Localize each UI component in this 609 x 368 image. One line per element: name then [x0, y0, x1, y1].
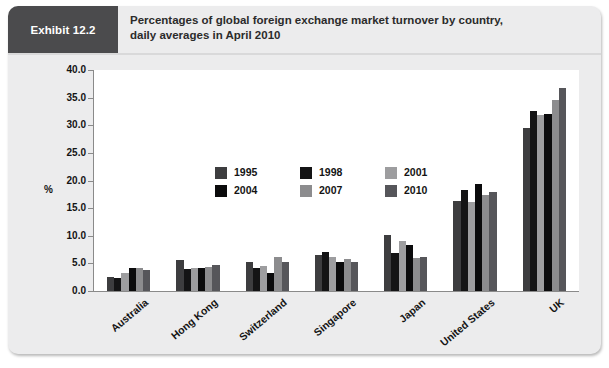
- bar: [351, 262, 358, 291]
- y-axis-tick: [88, 263, 93, 264]
- x-axis-category-labels: AustraliaHong KongSwitzerlandSingaporeJa…: [93, 292, 593, 352]
- bar: [453, 201, 460, 291]
- legend-label: 1995: [234, 166, 257, 178]
- bar: [559, 88, 566, 291]
- bar: [552, 100, 559, 291]
- legend-swatch: [300, 185, 312, 197]
- legend-label: 1998: [319, 166, 342, 178]
- y-axis-tick-label: 40.0: [50, 64, 86, 75]
- legend-label: 2001: [404, 166, 427, 178]
- y-axis-tick-label: 15.0: [50, 202, 86, 213]
- y-axis-tick-label: 35.0: [50, 92, 86, 103]
- y-axis-tick-label: 5.0: [50, 257, 86, 268]
- bar-group: [246, 70, 289, 291]
- y-axis-tick: [88, 125, 93, 126]
- bar: [253, 268, 260, 291]
- bar: [530, 111, 537, 291]
- bar: [274, 257, 281, 291]
- bar: [344, 259, 351, 291]
- y-axis-tick: [88, 153, 93, 154]
- exhibit-card: Exhibit 12.2 Percentages of global forei…: [8, 6, 601, 354]
- bar: [212, 265, 219, 291]
- bar-group: [453, 70, 496, 291]
- bar: [468, 202, 475, 291]
- y-axis-tick-label: 10.0: [50, 230, 86, 241]
- chart-plot-area: 199519982001200420072010: [93, 70, 579, 292]
- x-axis-category-label: Australia: [51, 296, 151, 368]
- bar: [322, 252, 329, 291]
- bar: [482, 195, 489, 291]
- bar: [537, 115, 544, 291]
- legend-swatch: [215, 167, 227, 179]
- y-axis-unit-label: %: [44, 184, 53, 195]
- bars-layer: [94, 70, 579, 291]
- legend-swatch: [300, 167, 312, 179]
- bar: [329, 257, 336, 291]
- bar: [114, 278, 121, 291]
- y-axis-tick: [88, 70, 93, 71]
- y-axis-tick-label: 30.0: [50, 119, 86, 130]
- exhibit-title-line-1: Percentages of global foreign exchange m…: [130, 13, 585, 28]
- bar: [489, 192, 496, 291]
- legend-swatch: [385, 185, 397, 197]
- legend-label: 2007: [319, 184, 342, 196]
- bar: [107, 277, 114, 291]
- bar: [176, 260, 183, 291]
- bar: [523, 128, 530, 291]
- y-axis-tick: [88, 98, 93, 99]
- bar: [384, 235, 391, 291]
- bar: [136, 268, 143, 291]
- bar: [461, 190, 468, 291]
- bar: [267, 273, 274, 291]
- bar: [121, 273, 128, 291]
- y-axis-tick: [88, 208, 93, 209]
- bar-group: [315, 70, 358, 291]
- bar-group: [384, 70, 427, 291]
- bar: [184, 269, 191, 291]
- bar: [399, 241, 406, 291]
- exhibit-number-tab: Exhibit 12.2: [8, 6, 118, 53]
- bar: [282, 262, 289, 291]
- bar: [544, 114, 551, 291]
- exhibit-title: Percentages of global foreign exchange m…: [130, 13, 585, 43]
- bar: [260, 266, 267, 291]
- bar: [246, 262, 253, 291]
- y-axis-tick-label: 25.0: [50, 147, 86, 158]
- bar: [475, 184, 482, 291]
- bar: [406, 245, 413, 291]
- bar-group: [107, 70, 150, 291]
- bar: [191, 268, 198, 291]
- bar: [143, 270, 150, 291]
- exhibit-number-label: Exhibit 12.2: [30, 24, 95, 36]
- y-axis-tick-label: 0.0: [50, 285, 86, 296]
- bar: [420, 257, 427, 291]
- bar: [205, 267, 212, 291]
- legend-swatch: [385, 167, 397, 179]
- exhibit-title-line-2: daily averages in April 2010: [130, 28, 585, 43]
- header-divider: [8, 53, 601, 55]
- bar: [129, 268, 136, 291]
- bar: [391, 253, 398, 291]
- bar: [198, 268, 205, 291]
- bar-group: [523, 70, 566, 291]
- bar: [413, 258, 420, 291]
- legend-label: 2010: [404, 184, 427, 196]
- exhibit-header: Exhibit 12.2 Percentages of global forei…: [8, 6, 601, 53]
- legend-label: 2004: [234, 184, 257, 196]
- y-axis-tick: [88, 236, 93, 237]
- bar-group: [176, 70, 219, 291]
- bar: [336, 262, 343, 291]
- y-axis-tick: [88, 181, 93, 182]
- y-axis-tick-label: 20.0: [50, 175, 86, 186]
- bar: [315, 255, 322, 291]
- legend-swatch: [215, 185, 227, 197]
